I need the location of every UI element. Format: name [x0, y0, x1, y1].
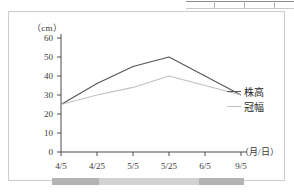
- y-tick-label: 10: [31, 129, 53, 138]
- y-tick-label: 20: [31, 110, 53, 119]
- annotation-bar-highlight: [99, 178, 199, 185]
- y-tick-label: 50: [31, 53, 53, 62]
- x-axis-title: （月/日）: [240, 145, 279, 158]
- y-tick-label: 30: [31, 91, 53, 100]
- x-tick-label: 4/5: [41, 162, 81, 171]
- header-rule-top: [186, 1, 294, 2]
- legend-label: 冠幅: [244, 99, 264, 114]
- legend-line-swatch: [227, 106, 241, 107]
- legend-label: 株高: [244, 84, 264, 99]
- header-divider: [274, 1, 275, 8]
- cutoff-table-header: [186, 0, 294, 9]
- x-tick-label: 4/25: [77, 162, 117, 171]
- legend-item: 株高: [227, 84, 289, 99]
- annotation-bar: [52, 178, 244, 185]
- axes: [61, 34, 247, 152]
- legend-line-swatch: [227, 91, 241, 92]
- x-tick-label: 9/5: [221, 162, 261, 171]
- x-tick-label: 6/5: [185, 162, 225, 171]
- y-tick-label: 60: [31, 34, 53, 43]
- y-tick-label: 40: [31, 72, 53, 81]
- x-tick-label: 5/5: [113, 162, 153, 171]
- header-rule-bottom: [186, 8, 294, 9]
- chart-legend: 株高冠幅: [227, 84, 289, 114]
- chart-figure: （cm） （月/日） 0102030405060 4/54/255/55/256…: [8, 11, 285, 181]
- plot-area: （cm） （月/日） 0102030405060 4/54/255/55/256…: [9, 12, 286, 182]
- y-tick-label: 0: [31, 148, 53, 157]
- legend-item: 冠幅: [227, 99, 289, 114]
- series-lines: [61, 57, 241, 105]
- header-divider: [214, 1, 215, 8]
- header-divider: [244, 1, 245, 8]
- x-axis-ticks: [61, 152, 241, 156]
- y-axis-ticks: [57, 38, 61, 152]
- x-tick-label: 5/25: [149, 162, 189, 171]
